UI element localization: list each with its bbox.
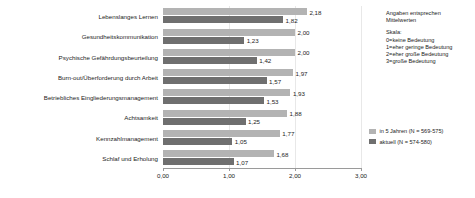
- bar-group: 1,771,05: [163, 128, 361, 148]
- note-intro-1: Angaben entsprechen: [386, 10, 475, 17]
- category-label-row: Lebenslanges Lernen: [0, 6, 158, 26]
- bar-future[interactable]: [163, 150, 274, 157]
- x-axis-tick: [361, 168, 362, 171]
- bar-row-current: 1,82: [163, 16, 361, 23]
- note-intro-2: Mittelwerten: [386, 17, 475, 24]
- bar-row-future: 1,68: [163, 150, 361, 157]
- bar-future[interactable]: [163, 89, 290, 96]
- bar-group: 1,881,25: [163, 107, 361, 127]
- x-axis-tick-label: 2,00: [289, 172, 301, 179]
- bar-value-label: 1,68: [274, 150, 289, 157]
- category-label: Schlaf und Erholung: [102, 154, 158, 161]
- bar-current[interactable]: [163, 77, 267, 84]
- bar-row-future: 2,18: [163, 8, 361, 15]
- category-label-row: Kennzahlmanagement: [0, 128, 158, 148]
- bar-group: 1,971,57: [163, 67, 361, 87]
- bar-row-future: 2,00: [163, 49, 361, 56]
- category-label: Kennzahlmanagement: [96, 134, 158, 141]
- scale-item-2: 2=eher große Bedeutung: [386, 51, 475, 58]
- bar-row-future: 1,77: [163, 130, 361, 137]
- bar-row-future: 1,97: [163, 69, 361, 76]
- legend-item-future: in 5 Jahren (N = 569-575): [369, 127, 475, 135]
- x-axis-tick: [163, 168, 164, 171]
- bar-value-label: 1,53: [264, 97, 279, 104]
- bar-current[interactable]: [163, 57, 257, 64]
- bar-row-current: 1,42: [163, 57, 361, 64]
- x-axis-tick: [229, 168, 230, 171]
- legend-item-current: aktuell (N = 574-580): [369, 138, 475, 146]
- legend-swatch-icon-future: [369, 129, 376, 134]
- bar-row-future: 1,88: [163, 110, 361, 117]
- category-label: Gesundheitskommunikation: [82, 33, 158, 40]
- bar-future[interactable]: [163, 69, 293, 76]
- bar-group: 1,681,07: [163, 148, 361, 168]
- plot-area: 2,181,822,001,232,001,421,971,571,931,53…: [163, 6, 361, 168]
- bar-row-current: 1,25: [163, 118, 361, 125]
- bar-group: 2,001,23: [163, 26, 361, 46]
- bar-current[interactable]: [163, 97, 264, 104]
- bar-current[interactable]: [163, 16, 283, 23]
- bar-group: 1,931,53: [163, 87, 361, 107]
- gridline: [361, 6, 362, 168]
- bar-row-current: 1,05: [163, 138, 361, 145]
- category-label: Lebenslanges Lernen: [98, 13, 158, 20]
- bar-future[interactable]: [163, 130, 280, 137]
- bar-value-label: 2,18: [307, 8, 322, 15]
- bar-group: 2,001,42: [163, 47, 361, 67]
- bar-future[interactable]: [163, 49, 295, 56]
- chart-legend: in 5 Jahren (N = 569-575) aktuell (N = 5…: [369, 127, 475, 148]
- bar-value-label: 2,00: [295, 49, 310, 56]
- bar-value-label: 1,25: [246, 118, 261, 125]
- category-label-row: Betriebliches Eingliederungsmanagement: [0, 87, 158, 107]
- bar-current[interactable]: [163, 118, 246, 125]
- category-label: Burn-out/Überforderung durch Arbeit: [58, 73, 158, 80]
- x-axis-tick: [295, 168, 296, 171]
- category-label-row: Gesundheitskommunikation: [0, 26, 158, 46]
- bar-value-label: 1,82: [283, 16, 298, 23]
- bar-current[interactable]: [163, 138, 232, 145]
- bar-row-current: 1,57: [163, 77, 361, 84]
- bar-value-label: 1,93: [290, 89, 305, 96]
- scale-item-1: 1=eher geringe Bedeutung: [386, 44, 475, 51]
- category-label: Betriebliches Eingliederungsmanagement: [44, 94, 158, 101]
- bar-value-label: 1,57: [267, 77, 282, 84]
- category-label: Achtsamkeit: [124, 114, 158, 121]
- bar-value-label: 2,00: [295, 29, 310, 36]
- bar-value-label: 1,05: [232, 138, 247, 145]
- bar-chart: Lebenslanges LernenGesundheitskommunikat…: [0, 0, 475, 198]
- bar-current[interactable]: [163, 37, 244, 44]
- category-label-row: Schlaf und Erholung: [0, 148, 158, 168]
- bar-value-label: 1,07: [234, 158, 249, 165]
- bar-group: 2,181,82: [163, 6, 361, 26]
- bar-row-future: 1,93: [163, 89, 361, 96]
- annotation-block: Angaben entsprechen Mittelwerten Skala: …: [386, 10, 475, 65]
- legend-label-current: aktuell (N = 574-580): [380, 139, 432, 145]
- bar-row-current: 1,07: [163, 158, 361, 165]
- bar-value-label: 1,88: [287, 110, 302, 117]
- bar-value-label: 1,42: [257, 57, 272, 64]
- bar-row-current: 1,53: [163, 97, 361, 104]
- category-label-row: Psychische Gefährdungsbeurteilung: [0, 47, 158, 67]
- x-axis-tick-label: 0,00: [157, 172, 169, 179]
- x-axis-line: [163, 168, 361, 169]
- x-axis-tick-label: 1,00: [223, 172, 235, 179]
- scale-item-3: 3=große Bedeutung: [386, 58, 475, 65]
- scale-title: Skala:: [386, 29, 475, 36]
- bar-current[interactable]: [163, 158, 234, 165]
- category-label-row: Achtsamkeit: [0, 107, 158, 127]
- bar-future[interactable]: [163, 29, 295, 36]
- x-axis-tick-label: 3,00: [355, 172, 367, 179]
- category-label: Psychische Gefährdungsbeurteilung: [59, 53, 158, 60]
- bar-value-label: 1,77: [280, 130, 295, 137]
- bar-future[interactable]: [163, 110, 287, 117]
- bar-value-label: 1,23: [244, 37, 259, 44]
- category-label-row: Burn-out/Überforderung durch Arbeit: [0, 67, 158, 87]
- bar-value-label: 1,97: [293, 69, 308, 76]
- bar-future[interactable]: [163, 8, 307, 15]
- scale-item-0: 0=keine Bedeutung: [386, 37, 475, 44]
- legend-label-future: in 5 Jahren (N = 569-575): [380, 128, 444, 134]
- bar-row-future: 2,00: [163, 29, 361, 36]
- legend-swatch-icon-current: [369, 139, 376, 144]
- category-label-column: Lebenslanges LernenGesundheitskommunikat…: [0, 6, 158, 168]
- bar-row-current: 1,23: [163, 37, 361, 44]
